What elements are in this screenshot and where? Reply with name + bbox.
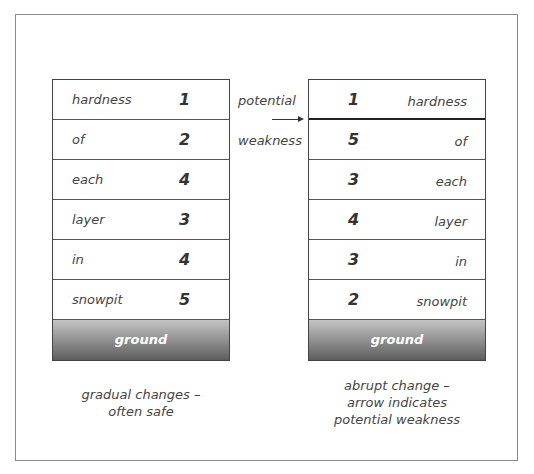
layer-hardness: 2	[348, 290, 359, 309]
left-snowpit: hardness1 of2 each4 layer3 in4 snowpit5 …	[52, 79, 230, 361]
layer-hardness: 4	[179, 170, 190, 189]
layer-row-weak-interface: 1hardness	[309, 80, 485, 120]
layer-row: 3in	[309, 240, 485, 280]
layer-hardness: 3	[348, 250, 359, 269]
caption-line: abrupt change –	[287, 377, 507, 394]
layer-label: snowpit	[416, 294, 467, 309]
layer-label: of	[454, 134, 467, 149]
layer-hardness: 3	[179, 210, 190, 229]
layer-row: snowpit5	[53, 280, 229, 320]
layer-hardness: 2	[179, 130, 190, 149]
caption-line: potential weakness	[287, 411, 507, 428]
layer-label: hardness	[407, 94, 467, 109]
caption-line: often safe	[31, 403, 251, 420]
layer-label: in	[72, 252, 84, 267]
layer-row: hardness1	[53, 80, 229, 120]
layer-label: layer	[434, 214, 467, 229]
layer-row: 4layer	[309, 200, 485, 240]
layer-hardness: 4	[179, 250, 190, 269]
layer-hardness: 4	[348, 210, 359, 229]
layer-label: hardness	[72, 92, 132, 107]
arrow-right-icon	[272, 119, 302, 120]
layer-row: layer3	[53, 200, 229, 240]
layer-hardness: 5	[179, 290, 190, 309]
layer-label: of	[72, 132, 85, 147]
right-caption: abrupt change – arrow indicates potentia…	[287, 377, 507, 428]
layer-row: 5of	[309, 120, 485, 160]
layer-row: 2snowpit	[309, 280, 485, 320]
layer-label: each	[72, 172, 103, 187]
arrow-label-bottom: weakness	[238, 133, 302, 148]
layer-hardness: 5	[348, 130, 359, 149]
layer-label: in	[455, 254, 467, 269]
caption-line: arrow indicates	[287, 394, 507, 411]
right-snowpit: 1hardness 5of 3each 4layer 3in 2snowpit …	[308, 79, 486, 361]
layer-row: 3each	[309, 160, 485, 200]
layer-label: layer	[72, 212, 105, 227]
layer-hardness: 1	[179, 90, 190, 109]
layer-label: snowpit	[72, 292, 123, 307]
layer-hardness: 1	[348, 90, 359, 109]
layer-row: in4	[53, 240, 229, 280]
arrow-label-top: potential	[238, 93, 296, 108]
layer-row: each4	[53, 160, 229, 200]
layer-label: each	[436, 174, 467, 189]
ground-layer: ground	[53, 320, 229, 360]
caption-line: gradual changes –	[31, 386, 251, 403]
ground-layer: ground	[309, 320, 485, 360]
layer-hardness: 3	[348, 170, 359, 189]
layer-row: of2	[53, 120, 229, 160]
left-caption: gradual changes – often safe	[31, 386, 251, 420]
